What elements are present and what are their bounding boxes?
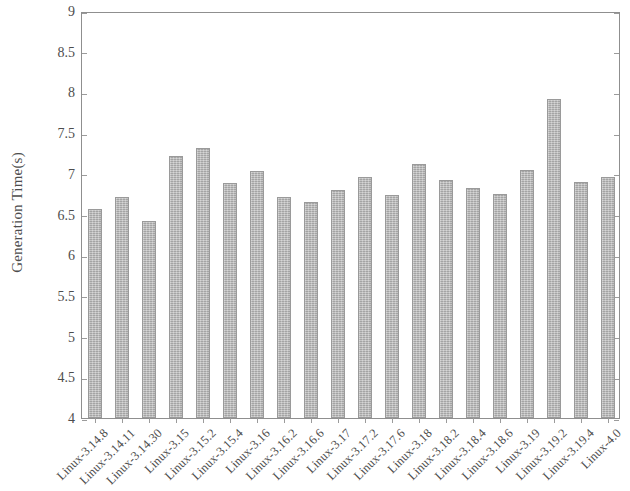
bar [331,190,345,418]
bar [277,197,291,418]
y-axis-tick-label: 5.5 [35,289,75,305]
bar [358,177,372,418]
bar [466,188,480,418]
y-axis-tick-label: 6 [35,248,75,264]
bar [250,171,264,418]
y-axis-tick-label: 8.5 [35,45,75,61]
plot-area [81,12,620,419]
x-axis-tick-labels: Linux-3.14.8Linux-3.14.11Linux-3.14.30Li… [0,420,630,491]
bar [412,164,426,418]
bar [142,221,156,418]
bar [547,99,561,418]
bar [520,170,534,418]
bar [88,209,102,418]
bar [574,182,588,418]
y-axis-title-label: Generation Time(s) [9,152,26,273]
y-axis-title: Generation Time(s) [0,0,34,425]
bar [169,156,183,418]
y-axis-tick-label: 6.5 [35,208,75,224]
bar [385,195,399,418]
bar [493,194,507,418]
bar [115,197,129,418]
bar-chart: Generation Time(s) 44.555.566.577.588.59… [0,0,630,491]
bar [304,202,318,418]
y-axis-tick-label: 8 [35,85,75,101]
bar [223,183,237,418]
y-axis-tick-label: 9 [35,4,75,20]
bar [196,148,210,418]
y-axis-tick-label: 5 [35,330,75,346]
y-axis-tick-label: 7 [35,167,75,183]
bar [439,180,453,419]
y-axis-tick-label: 7.5 [35,126,75,142]
y-axis-tick-label: 4.5 [35,370,75,386]
bar [601,177,615,418]
bars-layer [82,13,619,418]
